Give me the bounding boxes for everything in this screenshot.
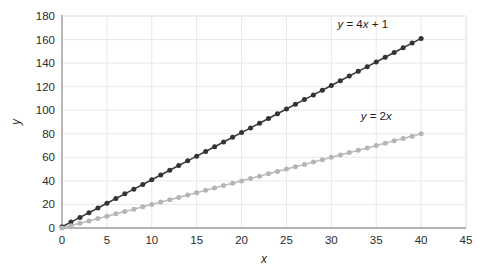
data-point <box>284 107 289 112</box>
data-point <box>248 125 253 130</box>
data-point <box>266 171 271 176</box>
data-point <box>185 158 190 163</box>
data-point <box>60 226 65 231</box>
data-point <box>203 149 208 154</box>
data-point <box>158 173 163 178</box>
data-point <box>257 174 262 179</box>
data-point <box>122 209 127 214</box>
data-point <box>167 197 172 202</box>
x-tick-label: 45 <box>460 234 473 246</box>
data-point <box>149 202 154 207</box>
series-label: y = 4x + 1 <box>336 18 388 30</box>
series-label: y = 2x <box>360 110 393 122</box>
data-point <box>230 181 235 186</box>
data-point <box>77 221 82 226</box>
data-point <box>347 150 352 155</box>
data-point <box>140 182 145 187</box>
data-point <box>185 193 190 198</box>
data-point <box>392 138 397 143</box>
y-tick-label: 60 <box>42 151 55 163</box>
x-tick-label: 10 <box>145 234 158 246</box>
data-point <box>374 143 379 148</box>
line-chart: 051015202530354045 020406080100120140160… <box>0 0 479 266</box>
data-point <box>131 207 136 212</box>
x-tick-label: 35 <box>370 234 383 246</box>
x-tick-label: 30 <box>325 234 338 246</box>
data-point <box>365 145 370 150</box>
y-tick-label: 120 <box>36 81 55 93</box>
data-point <box>302 97 307 102</box>
x-tick-label: 40 <box>415 234 428 246</box>
data-point <box>383 141 388 146</box>
chart-canvas: 051015202530354045 020406080100120140160… <box>0 0 479 266</box>
data-point <box>68 223 73 228</box>
y-tick-label: 180 <box>36 10 55 22</box>
data-point <box>95 205 100 210</box>
data-point <box>311 92 316 97</box>
data-point <box>104 214 109 219</box>
data-point <box>167 168 172 173</box>
data-point <box>149 177 154 182</box>
y-tick-label: 40 <box>42 175 55 187</box>
data-point <box>293 164 298 169</box>
data-point <box>194 190 199 195</box>
data-point <box>410 41 415 46</box>
x-axis-title: x <box>260 252 268 266</box>
data-point <box>320 157 325 162</box>
y-tick-label: 100 <box>36 104 55 116</box>
data-point <box>365 64 370 69</box>
data-point <box>383 55 388 60</box>
data-point <box>374 59 379 64</box>
data-point <box>248 176 253 181</box>
data-point <box>356 69 361 74</box>
data-point <box>356 148 361 153</box>
data-point <box>86 210 91 215</box>
data-point <box>86 218 91 223</box>
data-point <box>221 140 226 145</box>
data-point <box>275 169 280 174</box>
data-point <box>410 134 415 139</box>
data-point <box>113 211 118 216</box>
y-axis-title: y <box>9 118 23 126</box>
y-tick-label: 20 <box>42 198 55 210</box>
data-point <box>401 45 406 50</box>
data-point <box>338 152 343 157</box>
data-point <box>320 88 325 93</box>
y-tick-label: 160 <box>36 34 55 46</box>
data-point <box>329 155 334 160</box>
data-point <box>95 216 100 221</box>
data-point <box>347 74 352 79</box>
data-point <box>329 83 334 88</box>
data-point <box>194 154 199 159</box>
data-point <box>419 36 424 41</box>
y-tick-label: 140 <box>36 57 55 69</box>
data-point <box>284 167 289 172</box>
data-point <box>176 195 181 200</box>
x-tick-label: 15 <box>190 234 203 246</box>
data-point <box>140 204 145 209</box>
x-tick-label: 20 <box>235 234 248 246</box>
y-tick-label: 0 <box>49 222 55 234</box>
data-point <box>230 135 235 140</box>
data-point <box>77 215 82 220</box>
data-point <box>302 162 307 167</box>
data-point <box>275 111 280 116</box>
data-point <box>212 144 217 149</box>
data-point <box>158 200 163 205</box>
data-point <box>419 131 424 136</box>
data-point <box>401 136 406 141</box>
data-point <box>338 78 343 83</box>
data-point <box>257 121 262 126</box>
x-tick-label: 5 <box>104 234 110 246</box>
x-tick-label: 25 <box>280 234 293 246</box>
x-tick-label: 0 <box>59 234 65 246</box>
data-point <box>122 191 127 196</box>
data-point <box>221 183 226 188</box>
data-point <box>113 196 118 201</box>
data-point <box>239 178 244 183</box>
data-point <box>311 160 316 165</box>
data-point <box>203 188 208 193</box>
y-tick-label: 80 <box>42 128 55 140</box>
data-point <box>293 102 298 107</box>
data-point <box>212 185 217 190</box>
